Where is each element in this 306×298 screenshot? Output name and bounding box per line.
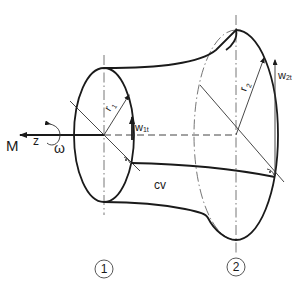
pipe-upper-contour (104, 30, 236, 68)
radius-1-arrow (104, 95, 129, 135)
diagonal-1 (70, 101, 140, 171)
right-angle-dot-1 (125, 159, 127, 161)
velocity-2t-label: w2t (277, 69, 292, 81)
radius-2-arrow (236, 58, 264, 135)
radius-2-label: r 2 (237, 80, 253, 93)
svg-text:2: 2 (245, 83, 253, 89)
control-volume-diagram: M z ω r 1 r 2 w1t w2t cv 1 2 (0, 0, 306, 298)
velocity-1t-label: w1t (134, 121, 149, 133)
streamline (131, 163, 275, 177)
right-angle-dot-2 (269, 171, 271, 173)
section-1-number: 1 (101, 262, 108, 276)
control-volume-label: cv (154, 178, 166, 192)
torque-label: M (6, 137, 19, 154)
pipe-lower-contour (104, 202, 236, 240)
axis-label: z (33, 134, 39, 148)
omega-label: ω (54, 140, 65, 156)
section-2-ellipse-front (236, 30, 278, 240)
section-2-number: 2 (233, 260, 240, 274)
